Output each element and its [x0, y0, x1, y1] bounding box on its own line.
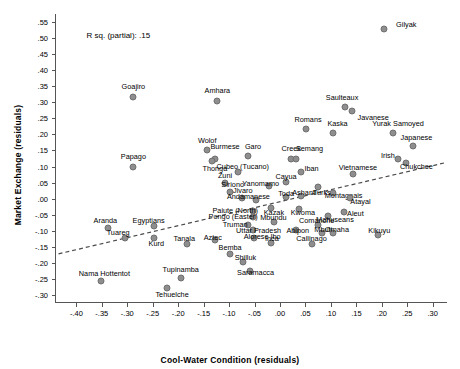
scatter-point	[214, 97, 221, 104]
y-axis-tick-label: -.30	[18, 290, 48, 299]
y-axis-tick	[52, 22, 56, 23]
y-axis-tick	[52, 70, 56, 71]
y-axis-tick-label: -.20	[18, 258, 48, 267]
scatter-point-label: Nama Hottentot	[79, 269, 130, 278]
x-axis-tick	[178, 303, 179, 307]
y-axis-tick	[52, 279, 56, 280]
scatter-point-label: Tuareg	[107, 228, 130, 237]
scatter-point-label: Chukchee	[400, 161, 433, 170]
y-axis-tick	[52, 215, 56, 216]
y-axis-tick	[52, 183, 56, 184]
scatter-point-label: Semang	[296, 144, 323, 153]
scatter-point	[349, 108, 356, 115]
scatter-point-label: Shilluk	[235, 253, 257, 262]
scatter-point-label: Ashanti	[292, 187, 316, 196]
scatter-point	[303, 125, 310, 132]
scatter-point	[381, 26, 388, 33]
scatter-point-label: Zuni	[218, 170, 232, 179]
scatter-point-label: Comanche	[299, 216, 334, 225]
scatter-point-label: Japanese	[401, 132, 433, 141]
scatter-point-label: Aztec	[204, 232, 222, 241]
x-axis-tick	[433, 303, 434, 307]
x-axis-tick	[382, 303, 383, 307]
scatter-point-label: Papago	[121, 151, 146, 160]
x-axis-tick	[331, 303, 332, 307]
scatter-point	[177, 275, 184, 282]
y-axis-tick	[52, 38, 56, 39]
x-axis-tick	[305, 303, 306, 307]
scatter-point-label: Saulteaux	[326, 92, 358, 101]
scatter-point	[342, 104, 349, 111]
y-axis-tick	[52, 118, 56, 119]
y-axis-tick-label: .45	[18, 50, 48, 59]
y-axis-tick-label: -.25	[18, 274, 48, 283]
y-axis-tick	[52, 102, 56, 103]
plot-panel: R sq. (partial): .15 .55.50.45.40.35.30.…	[55, 14, 447, 303]
x-axis-tick	[255, 303, 256, 307]
x-axis-tick	[229, 303, 230, 307]
scatter-point-label: Goajiro	[122, 81, 146, 90]
x-axis-tick	[204, 303, 205, 307]
scatter-point-label: Cubeo (Tucano)	[217, 161, 269, 170]
y-axis-tick-label: .55	[18, 18, 48, 27]
scatter-point-label: Vietnamese	[339, 163, 377, 172]
y-axis-tick	[52, 263, 56, 264]
scatter-plot-figure: R sq. (partial): .15 .55.50.45.40.35.30.…	[0, 0, 460, 369]
scatter-point-label: Mbundu	[260, 213, 286, 222]
y-axis-tick	[52, 134, 56, 135]
scatter-point	[330, 129, 337, 136]
x-axis-tick	[153, 303, 154, 307]
y-axis-tick	[52, 295, 56, 296]
scatter-point-label: Aranda	[94, 216, 118, 225]
scatter-point-label: Atayal	[350, 197, 370, 206]
scatter-point-label: Iban	[304, 164, 318, 173]
scatter-point	[293, 155, 300, 162]
x-axis-tick	[407, 303, 408, 307]
x-axis-tick	[76, 303, 77, 307]
x-axis-tick	[356, 303, 357, 307]
scatter-point	[245, 152, 252, 159]
y-axis-title: Market Exchange (residuals)	[13, 75, 23, 255]
x-axis-title: Cool-Water Condition (residuals)	[0, 355, 460, 365]
y-axis-tick	[52, 86, 56, 87]
scatter-point-label: Romans	[294, 115, 321, 124]
y-axis-tick	[52, 247, 56, 248]
scatter-point-label: Inca	[265, 233, 279, 242]
y-axis-tick-label: .50	[18, 34, 48, 43]
scatter-point-label: Garo	[245, 142, 261, 151]
scatter-point-label: Bemba	[219, 243, 242, 252]
y-axis-tick	[52, 231, 56, 232]
scatter-point-label: Kikuyu	[368, 226, 390, 235]
scatter-point-label: Egyptians	[133, 216, 165, 225]
y-axis-tick	[52, 150, 56, 151]
y-axis-tick	[52, 199, 56, 200]
scatter-point-label: Kurd	[149, 238, 164, 247]
scatter-point-label: Amhara	[205, 86, 231, 95]
scatter-point-label: Kaska	[327, 119, 347, 128]
scatter-point	[97, 278, 104, 285]
x-axis-tick	[102, 303, 103, 307]
y-axis-tick-label: .40	[18, 66, 48, 75]
x-axis-tick	[280, 303, 281, 307]
scatter-point-label: Tehuelche	[155, 290, 188, 299]
scatter-point-label: Callinago	[296, 233, 326, 242]
y-axis-tick	[52, 167, 56, 168]
scatter-point-label: Tupinamba	[163, 264, 199, 273]
scatter-point-label: Yurak Samoyed	[372, 118, 424, 127]
scatter-point	[410, 142, 417, 149]
scatter-point	[390, 129, 397, 136]
scatter-point-label: Saramacca	[237, 267, 274, 276]
scatter-point	[130, 164, 137, 171]
scatter-point	[130, 93, 137, 100]
rsq-annotation: R sq. (partial): .15	[87, 31, 151, 40]
scatter-point-label: Tanala	[174, 233, 196, 242]
scatter-point-label: Gilyak	[396, 19, 416, 28]
x-axis-tick-label: .30	[418, 309, 448, 318]
scatter-point-label: Omaha	[325, 225, 349, 234]
scatter-point-label: Andamanese	[227, 192, 270, 201]
y-axis-tick	[52, 54, 56, 55]
scatter-point-label: Irish	[381, 151, 395, 160]
scatter-point-label: Burmese	[210, 142, 239, 151]
x-axis-tick	[127, 303, 128, 307]
